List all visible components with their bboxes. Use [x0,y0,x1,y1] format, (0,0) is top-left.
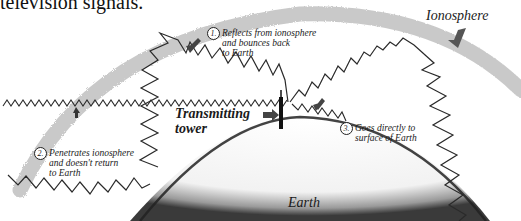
transmitting-tower-label: Transmitting tower [175,106,275,136]
note-reflects: 1. Reflects from ionosphere and bounces … [222,28,316,58]
note-line: surface of Earth [355,133,417,143]
note-line: and bounces back [222,38,316,48]
note-line: Penetrates ionosphere [49,148,134,158]
note-line: and doesn't return [49,158,134,168]
note-line: to Earth [222,48,316,58]
signal-propagation-diagram: television signals. Ionosphere Transmitt… [0,0,521,221]
ionosphere-label: Ionosphere [426,8,488,24]
heading-text: television signals. [0,0,143,14]
note-number-badge: 3. [340,122,353,135]
tower-label-line1: Transmitting [175,106,275,121]
note-line: Reflects from ionosphere [222,28,316,38]
note-penetrates: 2. Penetrates ionosphere and doesn't ret… [49,148,134,178]
note-line: to Earth [49,168,134,178]
tower-label-line2: tower [175,121,275,136]
note-direct: 3. Goes directly to surface of Earth [355,123,417,143]
note-number-badge: 1. [207,27,220,40]
earth-label: Earth [288,195,320,211]
note-line: Goes directly to [355,123,417,133]
note-number-badge: 2. [34,147,47,160]
transmitting-tower [279,97,283,129]
